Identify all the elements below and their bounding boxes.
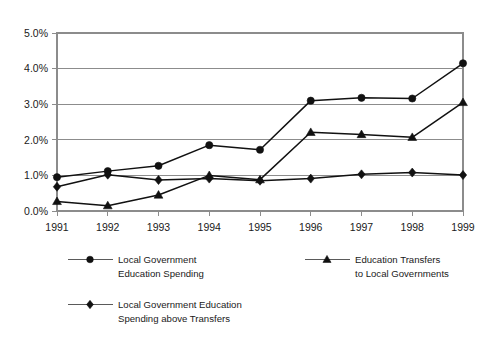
y-axis-tick-label: 5.0% bbox=[24, 27, 48, 39]
legend-label-line2: Spending above Transfers bbox=[118, 313, 230, 324]
x-axis-labels: 199119921993199419951996199719981999 bbox=[45, 221, 475, 233]
x-axis-tick-label: 1999 bbox=[451, 221, 475, 233]
x-axis-tick-label: 1991 bbox=[45, 221, 69, 233]
x-axis-tick-label: 1994 bbox=[198, 221, 222, 233]
legend-label-line2: Education Spending bbox=[118, 268, 204, 279]
x-axis-tick-label: 1995 bbox=[248, 221, 272, 233]
x-axis-tick-label: 1992 bbox=[96, 221, 120, 233]
legend-label-line1: Education Transfers bbox=[355, 254, 441, 265]
x-axis-tick-label: 1996 bbox=[299, 221, 323, 233]
legend-label-line2: to Local Governments bbox=[355, 268, 449, 279]
circle-marker bbox=[459, 60, 466, 67]
y-axis-tick-label: 1.0% bbox=[24, 169, 48, 181]
x-axis-tick-label: 1997 bbox=[350, 221, 374, 233]
legend-label-line1: Local Government bbox=[118, 254, 197, 265]
circle-marker bbox=[409, 95, 416, 102]
line-chart: 0.0%1.0%2.0%3.0%4.0%5.0% 199119921993199… bbox=[0, 0, 482, 343]
x-axis-tick-label: 1998 bbox=[401, 221, 425, 233]
circle-marker bbox=[256, 146, 263, 153]
x-axis-tick-label: 1993 bbox=[147, 221, 171, 233]
y-axis-tick-label: 4.0% bbox=[24, 62, 48, 74]
circle-marker bbox=[358, 94, 365, 101]
circle-marker bbox=[53, 174, 60, 181]
circle-marker bbox=[155, 162, 162, 169]
y-axis-tick-label: 3.0% bbox=[24, 98, 48, 110]
legend-label-line1: Local Government Education bbox=[118, 299, 242, 310]
circle-marker bbox=[206, 142, 213, 149]
y-axis-tick-label: 2.0% bbox=[24, 134, 48, 146]
y-axis-tick-label: 0.0% bbox=[24, 205, 48, 217]
circle-marker bbox=[87, 256, 94, 263]
circle-marker bbox=[307, 97, 314, 104]
